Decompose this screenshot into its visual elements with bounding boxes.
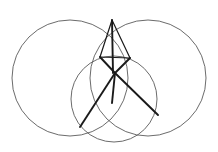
- geometry-figure: [0, 0, 218, 152]
- segment-apex-to-hub-left: [112, 20, 113, 73]
- figure-background: [0, 0, 218, 152]
- geometry-canvas: [0, 0, 218, 152]
